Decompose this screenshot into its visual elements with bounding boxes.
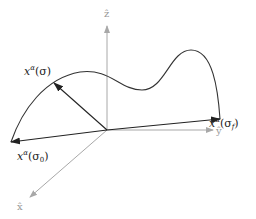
vector-x-sigma0	[11, 130, 107, 142]
z-axis-label: ẑ	[104, 8, 109, 19]
vector-x-sigma	[54, 83, 107, 130]
label-x-sigmaf: xα(σf)	[209, 116, 239, 131]
label-x-sigma0: xα(σ0)	[17, 149, 49, 164]
worldline-diagram: ẑ ŷ x̂ xα(σ) xα(σ0) xα(σf)	[0, 0, 256, 219]
label-x-sigma: xα(σ)	[24, 64, 51, 78]
worldline-curve	[11, 50, 220, 142]
x-axis-label: x̂	[17, 201, 23, 212]
vector-x-sigmaf	[107, 119, 220, 130]
